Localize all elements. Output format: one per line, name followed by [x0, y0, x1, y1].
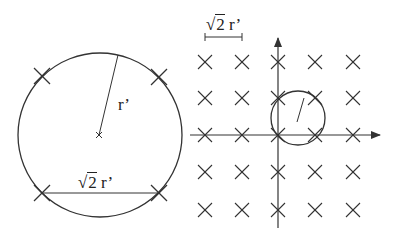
lattice-point-cross-icon [346, 91, 360, 105]
small-radius-line [297, 98, 304, 122]
lattice-diagram [0, 0, 393, 238]
lattice-point-cross-icon [235, 165, 249, 179]
right-panel [190, 33, 380, 228]
lattice-point-cross-icon [235, 203, 249, 217]
sqrt-expression: √2 [206, 16, 225, 33]
radical-sign: √ [206, 15, 215, 34]
chord-length-label: √2 r’ [78, 174, 113, 191]
lattice-point-cross-icon [235, 55, 249, 69]
lattice-point-cross-icon [346, 55, 360, 69]
lattice-point-cross-icon [346, 165, 360, 179]
radical-argument: 2 [215, 14, 225, 34]
lattice-point-cross-icon [346, 203, 360, 217]
radius-line [99, 55, 118, 135]
scale-label-suffix: r’ [225, 15, 241, 34]
radius-label: r’ [118, 96, 130, 113]
radical-sign: √ [78, 173, 87, 192]
lattice-point-cross-icon [34, 68, 50, 84]
lattice-point-cross-icon [198, 55, 212, 69]
lattice-point-cross-icon [198, 165, 212, 179]
scale-bar-label: √2 r’ [206, 16, 241, 33]
lattice-point-cross-icon [308, 203, 322, 217]
lattice-point-cross-icon [308, 165, 322, 179]
chord-label-suffix: r’ [97, 173, 113, 192]
sqrt-expression: √2 [78, 174, 97, 191]
lattice-point-cross-icon [198, 91, 212, 105]
radical-argument: 2 [87, 172, 97, 192]
left-panel [18, 53, 182, 217]
lattice-point-cross-icon [235, 91, 249, 105]
lattice-point-cross-icon [151, 69, 167, 85]
lattice-point-cross-icon [308, 55, 322, 69]
lattice-point-cross-icon [198, 203, 212, 217]
